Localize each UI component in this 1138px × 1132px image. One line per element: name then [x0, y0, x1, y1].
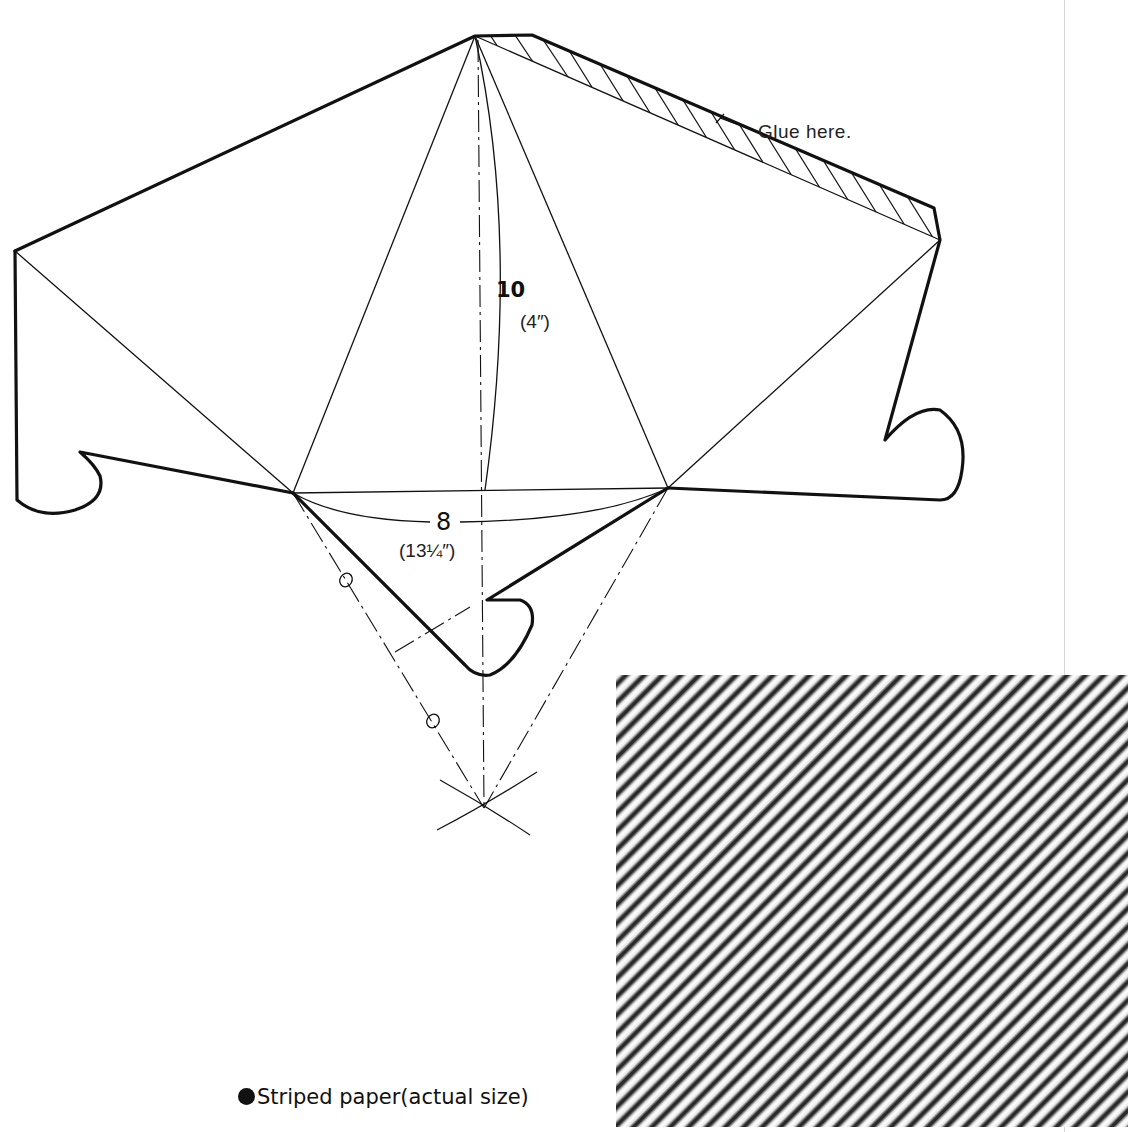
striped-paper-swatch	[616, 675, 1128, 1127]
height-dimension-label: 10	[496, 278, 525, 302]
height-dimension-inches-label: (4″)	[520, 311, 550, 333]
glue-here-label: Glue here.	[758, 121, 852, 143]
construction-lines	[293, 40, 668, 808]
base-dimension-inches-label: (13¼″)	[399, 540, 455, 562]
caption-text: Striped paper(actual size)	[257, 1085, 529, 1109]
base-dimension-label: 8	[436, 508, 451, 536]
equal-mark-icons	[337, 571, 441, 730]
bullet-dot-icon	[238, 1088, 255, 1105]
striped-paper-caption: Striped paper(actual size)	[238, 1085, 529, 1109]
fold-lines	[15, 36, 940, 522]
